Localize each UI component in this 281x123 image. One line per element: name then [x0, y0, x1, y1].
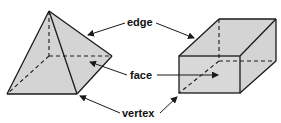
pyramid-shape	[7, 11, 112, 94]
edge-label: edge	[127, 16, 153, 28]
face-label: face	[130, 69, 152, 81]
rectangular-prism-shape	[179, 19, 276, 93]
vertex-label: vertex	[122, 107, 154, 119]
